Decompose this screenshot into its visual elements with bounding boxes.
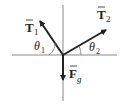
svg-text:1: 1 [41,46,45,55]
svg-text:F: F [69,66,77,81]
theta1-label: θ 1 [34,39,45,55]
theta2-label: θ 2 [89,40,100,56]
free-body-diagram: T 1 T 2 F g θ 1 θ 2 [0,0,126,108]
svg-text:T: T [97,7,106,22]
t1-label: T 1 [25,20,39,37]
svg-text:g: g [77,74,82,84]
t2-label: T 2 [97,7,111,24]
theta2-arc [79,46,81,55]
svg-text:θ: θ [34,39,40,53]
fg-label: F g [69,66,82,84]
theta1-arc [49,43,55,55]
svg-text:T: T [25,20,34,35]
svg-text:1: 1 [34,27,39,37]
svg-text:2: 2 [96,47,100,56]
svg-text:θ: θ [89,40,95,54]
svg-text:2: 2 [106,14,111,24]
